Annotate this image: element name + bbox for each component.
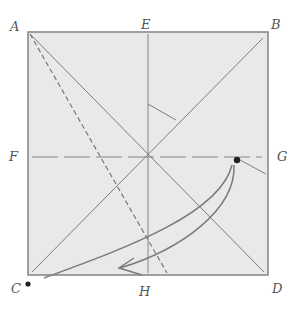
label-b: B [270,17,281,32]
label-c: C [11,281,21,296]
origami-fold-diagram: A E B F G C H D [0,0,295,311]
label-a: A [9,19,19,34]
label-e: E [140,17,151,32]
label-h: H [138,284,151,299]
dot-c [25,281,30,286]
label-g: G [277,149,287,164]
label-f: F [8,149,19,164]
dot-g [234,157,240,163]
label-d: D [271,281,283,296]
